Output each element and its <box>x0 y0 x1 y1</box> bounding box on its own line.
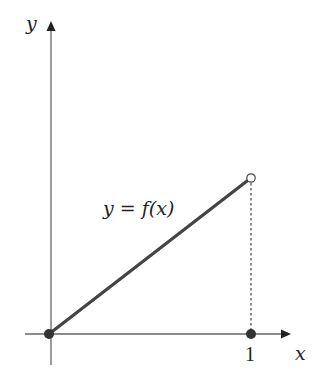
x-axis-label: x <box>295 342 306 364</box>
tick-label-1: 1 <box>245 343 255 365</box>
x-axis-arrow-icon <box>281 330 291 339</box>
open-endpoint <box>247 174 255 182</box>
function-graph: y x 1 y = f(x) <box>0 0 313 370</box>
origin-point <box>44 329 54 339</box>
function-label: y = f(x) <box>102 197 174 219</box>
x-one-point <box>246 329 256 339</box>
y-axis-arrow-icon <box>47 21 56 31</box>
y-axis-label: y <box>25 12 37 34</box>
